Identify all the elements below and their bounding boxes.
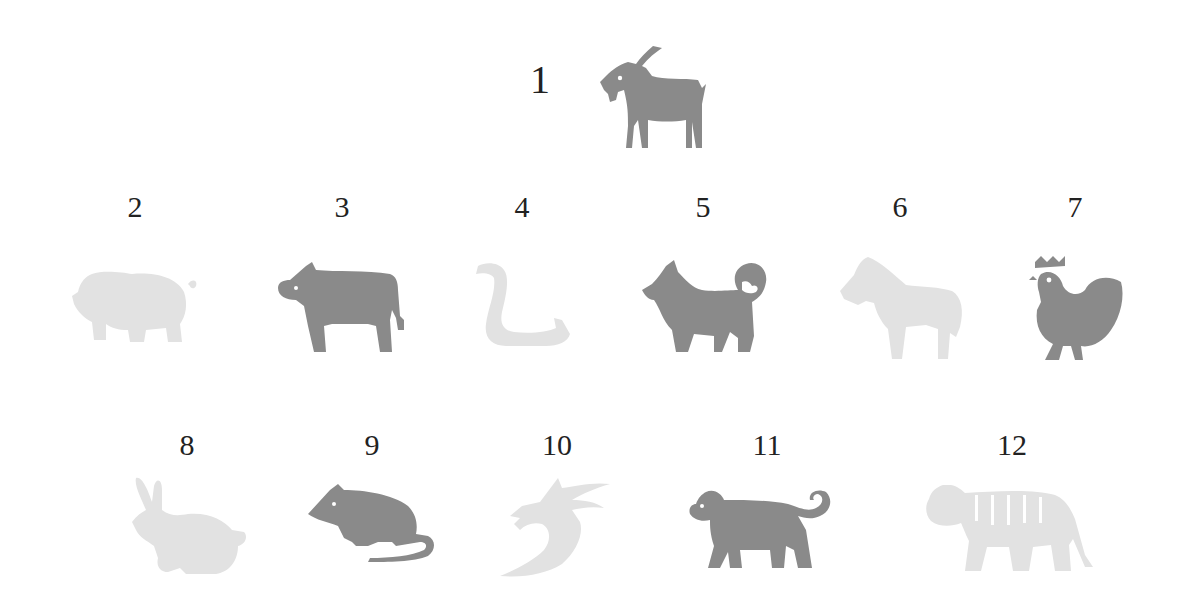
item-number-2: 2: [128, 192, 143, 222]
item-number-8: 8: [180, 430, 195, 460]
pig-icon[interactable]: [72, 268, 200, 344]
item-number-9: 9: [365, 430, 380, 460]
item-number-12: 12: [997, 430, 1027, 460]
dog-icon[interactable]: [642, 260, 768, 354]
item-number-3: 3: [335, 192, 350, 222]
ox-icon[interactable]: [276, 260, 406, 352]
goat-icon[interactable]: [598, 44, 708, 152]
snake-icon[interactable]: [472, 262, 572, 350]
horse-icon[interactable]: [840, 255, 965, 360]
rat-icon[interactable]: [308, 484, 436, 562]
item-number-1: 1: [530, 60, 550, 100]
item-number-4: 4: [515, 192, 530, 222]
tiger-icon[interactable]: [925, 485, 1095, 573]
rooster-icon[interactable]: [1025, 256, 1125, 360]
item-number-10: 10: [542, 430, 572, 460]
item-number-6: 6: [893, 192, 908, 222]
item-number-7: 7: [1068, 192, 1083, 222]
dragon-icon[interactable]: [500, 478, 612, 578]
item-number-11: 11: [753, 430, 782, 460]
monkey-icon[interactable]: [688, 490, 832, 572]
rabbit-icon[interactable]: [128, 476, 248, 576]
item-number-5: 5: [696, 192, 711, 222]
